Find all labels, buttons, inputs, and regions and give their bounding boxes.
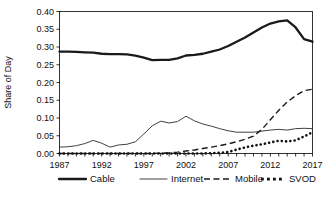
- line-chart: 0.000.050.100.150.200.250.300.350.40 198…: [0, 0, 335, 200]
- y-tick-label: 0.30: [36, 42, 54, 52]
- data-series-group: [60, 20, 313, 153]
- x-tick-label: 2002: [176, 160, 196, 170]
- x-axis-ticks: 1987199219972002200720122017: [49, 154, 322, 170]
- y-tick-label: 0.35: [36, 24, 54, 34]
- y-tick-label: 0.25: [36, 60, 54, 70]
- x-tick-label: 1997: [134, 160, 154, 170]
- y-tick-label: 0.10: [36, 113, 54, 123]
- series-line-internet: [60, 116, 313, 147]
- series-line-mobile: [60, 89, 313, 153]
- legend-marker-svod: [273, 178, 276, 181]
- x-tick-label: 1987: [49, 160, 69, 170]
- legend-marker-svod: [261, 178, 264, 181]
- y-tick-label: 0.20: [36, 78, 54, 88]
- legend-marker-svod: [267, 178, 270, 181]
- series-line-cable: [60, 20, 313, 60]
- y-tick-label: 0.40: [36, 7, 54, 17]
- x-tick-label: 2017: [302, 160, 322, 170]
- x-tick-label: 2012: [260, 160, 280, 170]
- y-tick-label: 0.15: [36, 95, 54, 105]
- chart-figure: 0.000.050.100.150.200.250.300.350.40 198…: [0, 0, 335, 200]
- y-axis-title-text: Share of Day: [3, 56, 13, 109]
- x-tick-label: 2007: [218, 160, 238, 170]
- y-axis-title: Share of Day: [3, 56, 13, 109]
- x-tick-label: 1992: [92, 160, 112, 170]
- plot-frame: [60, 12, 313, 154]
- chart-legend: CableInternetMobileSVOD: [59, 173, 316, 184]
- y-tick-label: 0.00: [36, 149, 54, 159]
- legend-label-cable: Cable: [90, 173, 115, 184]
- legend-label-mobile: Mobile: [235, 173, 263, 184]
- legend-label-internet: Internet: [171, 173, 204, 184]
- legend-label-svod: SVOD: [289, 173, 316, 184]
- y-tick-label: 0.05: [36, 131, 54, 141]
- y-axis-ticks: 0.000.050.100.150.200.250.300.350.40: [36, 7, 59, 159]
- legend-marker-svod: [279, 178, 282, 181]
